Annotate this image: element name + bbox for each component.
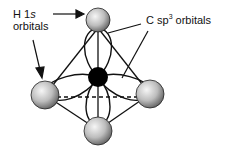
hydrogen-left — [31, 81, 59, 109]
arrowhead-icon — [36, 67, 44, 78]
arrowhead-icon — [76, 10, 84, 18]
h-orbitals-label: H 1s orbitals — [13, 8, 48, 32]
hydrogen-right — [136, 80, 164, 108]
carbon-atom — [88, 67, 108, 87]
hydrogen-bottom — [84, 117, 112, 145]
hydrogen-top — [86, 8, 110, 32]
c-orbitals-label: C sp3 orbitals — [146, 14, 211, 26]
